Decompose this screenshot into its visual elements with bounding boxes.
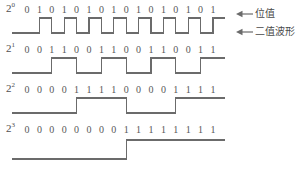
left-arrow-icon [236,10,253,18]
bit-digit: 1 [157,3,169,16]
bit-digit: 1 [207,83,219,96]
bit-digit: 1 [120,123,132,136]
bit-digit: 1 [83,3,95,16]
bit-digit: 0 [170,3,182,16]
row-2-pow-1-digits: 0011001100110011 [0,43,307,56]
bit-digit: 0 [46,3,58,16]
bit-digit: 1 [157,123,169,136]
bit-digit: 0 [95,3,107,16]
row-2-pow-2-digits: 0000111100001111 [0,83,307,96]
bit-digit: 1 [195,83,207,96]
bit-digit: 1 [182,123,194,136]
bit-digit: 1 [207,123,219,136]
bit-digit: 0 [133,43,145,56]
bit-digit: 1 [195,123,207,136]
bit-digit: 1 [133,123,145,136]
bit-digit: 0 [33,43,45,56]
bit-digit: 0 [170,43,182,56]
bit-digit: 0 [21,83,33,96]
bit-digit: 1 [195,43,207,56]
binary-waveform-annotation-text: 二值波形 [255,27,295,37]
row-2-pow-1-waveform [0,57,307,75]
bit-digit: 1 [83,83,95,96]
bit-digit: 1 [108,3,120,16]
bit-digit: 1 [46,43,58,56]
waveform-trace [12,98,225,113]
bit-digit: 0 [71,3,83,16]
bit-digit: 1 [108,83,120,96]
bit-digit: 1 [170,123,182,136]
binary-waveform-figure: 2001010101010101012100110011001100112200… [0,0,307,176]
bit-digit: 1 [33,3,45,16]
bit-digit: 1 [170,83,182,96]
bit-value-annotation: 位值 [236,9,275,19]
bit-digit: 0 [21,43,33,56]
waveform-trace [12,58,225,73]
bit-digit: 1 [133,3,145,16]
bit-digit: 0 [195,3,207,16]
bit-digit: 0 [33,83,45,96]
bit-digit: 1 [182,3,194,16]
bit-digit: 1 [58,43,70,56]
bit-digit: 0 [145,83,157,96]
bit-digit: 0 [71,43,83,56]
waveform-trace [12,140,225,159]
bit-digit: 0 [58,123,70,136]
bit-digit: 1 [207,43,219,56]
row-2-pow-3-digits: 0000000011111111 [0,123,307,136]
bit-digit: 1 [95,43,107,56]
bit-digit: 0 [33,123,45,136]
bit-digit: 0 [145,3,157,16]
bit-digit: 1 [157,43,169,56]
row-2-pow-3-waveform [0,139,307,161]
left-arrow-icon [236,28,253,36]
bit-digit: 0 [83,43,95,56]
bit-digit: 0 [46,83,58,96]
bit-digit: 1 [182,83,194,96]
bit-digit: 1 [145,123,157,136]
waveform-trace [12,18,225,33]
bit-digit: 1 [207,3,219,16]
bit-digit: 0 [21,3,33,16]
bit-digit: 1 [108,43,120,56]
bit-digit: 0 [83,123,95,136]
bit-digit: 0 [182,43,194,56]
bit-digit: 0 [133,83,145,96]
bit-value-annotation-text: 位值 [255,9,275,19]
bit-digit: 0 [21,123,33,136]
binary-waveform-annotation: 二值波形 [236,27,295,37]
bit-digit: 0 [120,3,132,16]
bit-digit: 0 [95,123,107,136]
bit-digit: 0 [71,123,83,136]
bit-digit: 0 [46,123,58,136]
bit-digit: 1 [145,43,157,56]
row-2-pow-2-waveform [0,97,307,115]
bit-digit: 0 [58,83,70,96]
bit-digit: 1 [71,83,83,96]
bit-digit: 0 [108,123,120,136]
bit-digit: 0 [120,83,132,96]
bit-digit: 0 [120,43,132,56]
bit-digit: 1 [95,83,107,96]
bit-digit: 1 [58,3,70,16]
bit-digit: 0 [157,83,169,96]
